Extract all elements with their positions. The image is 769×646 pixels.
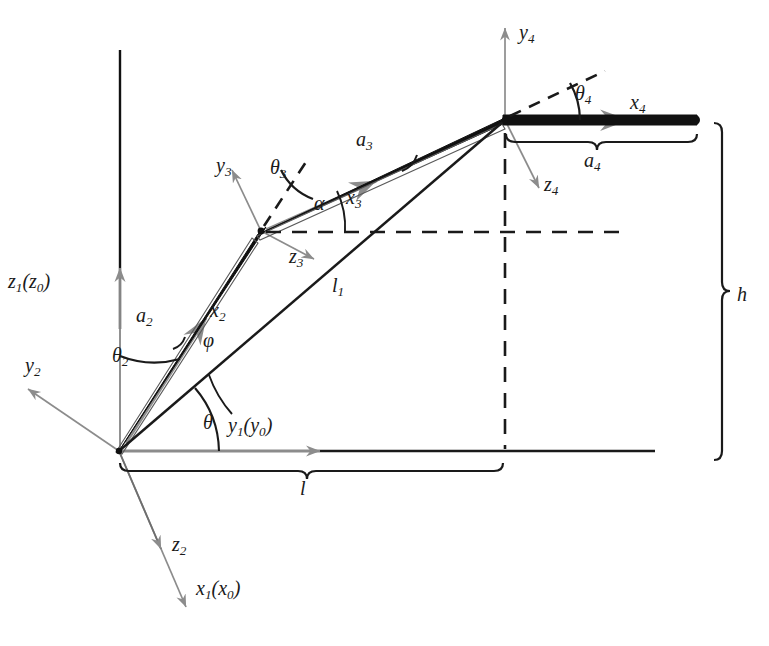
- label-theta: θ: [203, 412, 213, 432]
- label-x2: x2: [210, 300, 225, 320]
- label-alpha: α: [314, 193, 325, 213]
- joint1-pivot: [116, 448, 122, 454]
- construction-dashed-lines: [264, 71, 620, 449]
- label-a3: a3: [356, 129, 373, 149]
- z4-axis: [505, 120, 539, 188]
- manipulator-links: [116, 115, 700, 454]
- y3-axis: [232, 170, 261, 231]
- label-theta4: θ4: [575, 83, 591, 103]
- joint4-pivot: [502, 117, 508, 123]
- diagram-canvas: z1(z0) y1(y0) x1(x0) y2 z2 x2 y3 z3 x3 y…: [0, 0, 769, 646]
- z3-axis: [261, 231, 314, 259]
- link4-body: [503, 115, 697, 125]
- label-y3: y3: [216, 155, 231, 175]
- label-y4: y4: [519, 22, 534, 42]
- label-x3: x3: [346, 187, 361, 207]
- label-z1-z0: z1(z0): [8, 271, 50, 291]
- label-a2: a2: [136, 305, 153, 325]
- brace-a4: [506, 134, 697, 150]
- diagram-vector-layer: [0, 0, 769, 646]
- label-h: h: [737, 284, 747, 304]
- l1-strut-line: [119, 121, 504, 451]
- label-z2: z2: [172, 534, 186, 554]
- phi-arc: [209, 375, 232, 414]
- angle-arcs: [120, 83, 580, 451]
- frame4-axes: [505, 28, 628, 188]
- label-x1-x0: x1(x0): [196, 578, 240, 598]
- label-l1: l1: [332, 275, 344, 295]
- label-a4: a4: [584, 150, 601, 170]
- y2-axis: [28, 389, 119, 451]
- theta2-arc: [120, 356, 180, 362]
- link4-tip-cap: [690, 115, 700, 125]
- label-theta2: θ2: [112, 345, 128, 365]
- label-z3: z3: [289, 246, 303, 266]
- label-l: l: [300, 478, 306, 498]
- label-z4: z4: [544, 174, 558, 194]
- brace-l: [120, 463, 503, 479]
- label-x4: x4: [630, 92, 645, 112]
- z2-axis: [119, 451, 161, 549]
- label-phi: φ: [203, 330, 214, 350]
- joint3-pivot: [258, 228, 265, 235]
- label-y2: y2: [25, 355, 40, 375]
- label-theta3: θ3: [270, 157, 286, 177]
- brace-h: [714, 123, 730, 460]
- label-y1-y0: y1(y0): [228, 415, 272, 435]
- link3-body: [259, 117, 507, 234]
- reference-lines: [119, 50, 655, 451]
